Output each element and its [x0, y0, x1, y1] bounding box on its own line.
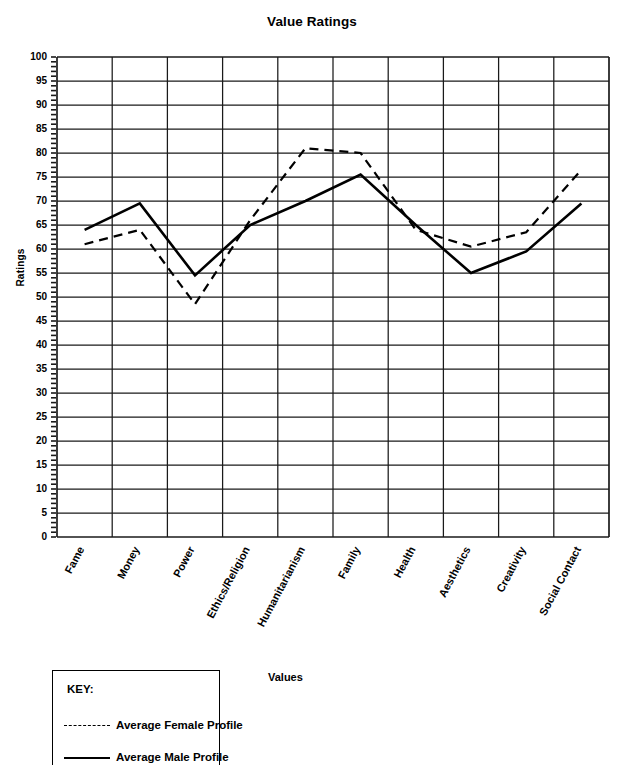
svg-text:10: 10 — [36, 483, 48, 494]
svg-text:80: 80 — [36, 147, 48, 158]
dashed-line-icon — [64, 724, 110, 727]
svg-text:100: 100 — [30, 51, 47, 62]
svg-text:75: 75 — [36, 171, 48, 182]
legend: KEY: Average Female Profile Average Male… — [52, 670, 220, 765]
svg-text:85: 85 — [36, 123, 48, 134]
solid-line-icon — [64, 756, 110, 759]
x-tick-label: Fame — [62, 544, 86, 575]
x-axis-tick-labels: FameMoneyPowerEthics/ReligionHumanitaria… — [62, 544, 583, 629]
x-tick-label: Health — [391, 544, 418, 580]
svg-text:50: 50 — [36, 291, 48, 302]
svg-text:45: 45 — [36, 315, 48, 326]
value-ratings-chart: Value Ratings Ratings 051015202530354045… — [0, 0, 624, 765]
x-tick-label: Social Contact — [537, 544, 584, 617]
x-axis-title: Values — [268, 671, 303, 683]
x-tick-label: Aesthetics — [436, 544, 473, 599]
svg-text:60: 60 — [36, 243, 48, 254]
x-tick-label: Creativity — [494, 544, 529, 595]
legend-title: KEY: — [67, 683, 94, 695]
svg-text:70: 70 — [36, 195, 48, 206]
svg-text:40: 40 — [36, 339, 48, 350]
x-tick-label: Power — [171, 544, 197, 579]
x-tick-label: Family — [335, 544, 362, 581]
gridlines — [57, 57, 609, 537]
svg-text:25: 25 — [36, 411, 48, 422]
legend-entry-male: Average Male Profile — [64, 751, 229, 763]
plot-area: 0510152025303540455055606570758085909510… — [0, 0, 624, 660]
x-tick-label: Humanitarianism — [255, 544, 308, 629]
legend-entry-female: Average Female Profile — [64, 719, 243, 731]
x-tick-label: Ethics/Religion — [204, 544, 252, 620]
svg-text:20: 20 — [36, 435, 48, 446]
svg-text:30: 30 — [36, 387, 48, 398]
y-axis-tick-labels: 0510152025303540455055606570758085909510… — [30, 51, 47, 542]
legend-label-male: Average Male Profile — [116, 751, 229, 763]
svg-text:90: 90 — [36, 99, 48, 110]
svg-text:35: 35 — [36, 363, 48, 374]
x-tick-label: Money — [115, 544, 142, 581]
minor-tick-marks — [51, 57, 56, 537]
svg-text:5: 5 — [41, 507, 47, 518]
svg-text:65: 65 — [36, 219, 48, 230]
svg-text:55: 55 — [36, 267, 48, 278]
svg-text:15: 15 — [36, 459, 48, 470]
svg-text:95: 95 — [36, 75, 48, 86]
svg-text:0: 0 — [41, 531, 47, 542]
legend-label-female: Average Female Profile — [116, 719, 243, 731]
